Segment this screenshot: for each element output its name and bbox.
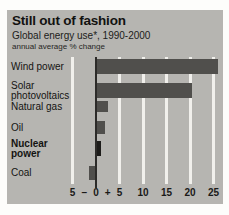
gridline	[189, 57, 192, 184]
category-label: Coal	[11, 168, 77, 179]
x-tick-label: 10	[137, 187, 148, 198]
category-label: Solar photovoltaics	[11, 80, 77, 101]
x-tick-label: 15	[161, 187, 172, 198]
x-tick-label: 20	[184, 187, 195, 198]
category-label: Nuclear power	[11, 138, 77, 159]
minus-sign-label: –	[81, 187, 87, 198]
zero-baseline	[95, 57, 97, 188]
plot-area: Wind powerSolar photovoltaicsNatural gas…	[7, 10, 223, 204]
x-tick-label: 25	[208, 187, 219, 198]
bar-solar-photovoltaics	[96, 83, 192, 98]
x-tick-label: 5	[117, 187, 123, 198]
gridline	[71, 57, 74, 184]
category-label: Wind power	[11, 61, 77, 72]
x-tick-label: 5	[70, 187, 76, 198]
x-tick-label: 0	[93, 187, 99, 198]
category-label: Oil	[11, 122, 77, 133]
bar-wind-power	[96, 59, 218, 74]
gridline	[212, 57, 215, 184]
gridline	[118, 57, 121, 184]
bar-oil	[96, 121, 105, 134]
bar-natural-gas	[96, 101, 108, 112]
category-label: Natural gas	[11, 101, 77, 112]
gridline	[142, 57, 145, 184]
chart-panel: Still out of fashion Global energy use*,…	[7, 10, 223, 204]
plus-sign-label: +	[105, 187, 111, 198]
gridline	[165, 57, 168, 184]
page: { "header": { "title": "Still out of fas…	[0, 0, 229, 215]
